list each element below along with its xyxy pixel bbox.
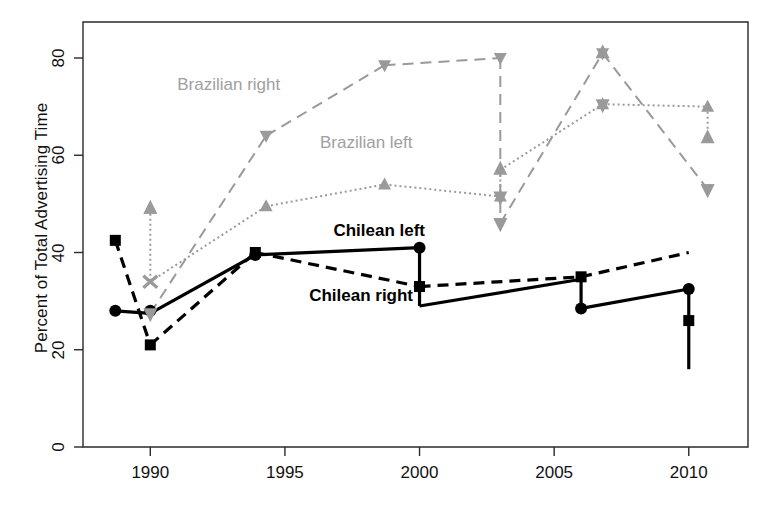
- series-segment: [115, 240, 150, 345]
- cross-marker-icon: [143, 276, 157, 288]
- arrow-cap-down-icon: [701, 184, 715, 198]
- data-point-marker: [683, 315, 694, 326]
- chart-figure: Percent of Total Advertising Time 020406…: [0, 0, 767, 513]
- x-tick-label: 1995: [245, 463, 325, 483]
- series-segment: [385, 184, 501, 196]
- series-segment: [266, 184, 384, 206]
- arrow-cap-down-icon: [493, 218, 507, 232]
- data-point-marker: [575, 302, 587, 314]
- arrow-cap-down-icon: [493, 192, 507, 206]
- arrow-cap-up-icon: [596, 44, 610, 58]
- series-segment: [150, 253, 255, 345]
- series-segment: [150, 136, 266, 313]
- data-point-marker: [250, 247, 261, 258]
- data-point-marker: [109, 305, 121, 317]
- y-tick-label: 60: [49, 135, 69, 175]
- series-brazilian-left: [144, 97, 714, 281]
- chilean-right-label: Chilean right: [309, 286, 413, 306]
- data-point-marker: [378, 177, 391, 189]
- data-point-marker: [414, 281, 425, 292]
- y-tick-label: 80: [49, 38, 69, 78]
- y-tick-label: 20: [49, 330, 69, 370]
- data-point-marker: [414, 242, 426, 254]
- series-segment: [266, 65, 384, 136]
- series-segment: [255, 253, 419, 287]
- series-segment: [150, 255, 255, 313]
- chilean-left-label: Chilean left: [333, 221, 425, 241]
- x-tick-label: 2000: [380, 463, 460, 483]
- series-segment: [581, 253, 689, 277]
- series-segment: [385, 58, 501, 65]
- series-segment: [603, 53, 708, 189]
- data-point-marker: [260, 199, 273, 211]
- plot-area: [0, 0, 767, 513]
- x-tick-label: 2005: [514, 463, 594, 483]
- arrow-cap-up-icon: [143, 200, 157, 214]
- series-segment: [500, 53, 602, 223]
- data-point-marker: [576, 271, 587, 282]
- series-segment: [581, 289, 689, 308]
- series-segment: [603, 104, 708, 106]
- data-point-marker: [378, 60, 391, 72]
- x-tick-label: 2010: [649, 463, 729, 483]
- series-segment: [255, 248, 419, 255]
- arrow-cap-down-icon: [143, 308, 157, 322]
- y-tick-label: 0: [49, 427, 69, 467]
- data-point-marker: [110, 235, 121, 246]
- y-tick-label: 40: [49, 233, 69, 273]
- data-point-marker: [145, 339, 156, 350]
- brazilian-right-label: Brazilian right: [177, 75, 280, 95]
- data-point-marker: [683, 283, 695, 295]
- series-segment: [500, 104, 602, 170]
- arrow-cap-up-icon: [701, 129, 715, 143]
- brazilian-left-label: Brazilian left: [320, 133, 413, 153]
- x-tick-label: 1990: [110, 463, 190, 483]
- series-segment: [150, 206, 266, 281]
